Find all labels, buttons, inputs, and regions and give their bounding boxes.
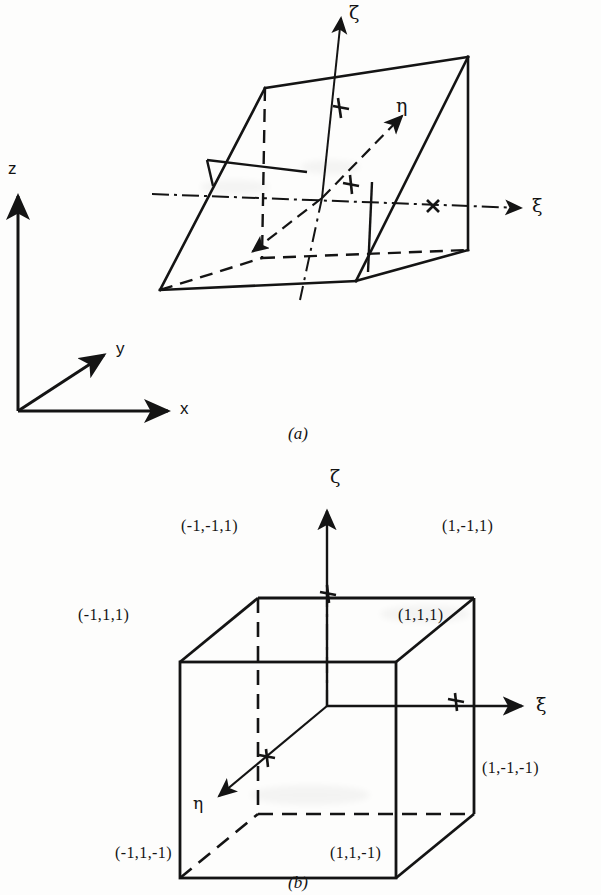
wedge-interior-vertical [368, 182, 372, 272]
caption-b: (b) [288, 873, 308, 893]
global-z-axis-label: z [8, 160, 17, 177]
axis-tick-marks [333, 98, 439, 212]
xi-axis-label-a: ξ [532, 196, 542, 215]
eta-axis-label-a: η [396, 96, 407, 115]
eta-axis-b [219, 706, 327, 796]
xi-axis-label-b: ξ [536, 695, 546, 714]
panel-b-drawing [0, 455, 601, 895]
global-x-axis-label: x [180, 400, 189, 417]
vertex-label-bottom-back-right: (1,-1,-1) [482, 760, 539, 776]
wedge-hidden-edges [160, 88, 468, 290]
caption-a: (a) [288, 424, 308, 444]
figure-page: z y x ζ η ξ (a) [0, 0, 601, 895]
global-y-axis-label: y [116, 340, 125, 357]
vertex-label-top-front-right: (1,1,1) [398, 607, 443, 623]
vertex-label-bottom-front-right: (1,1,-1) [330, 845, 381, 861]
global-axis-triad [18, 196, 168, 411]
vertex-label-bottom-front-left: (-1,1,-1) [115, 845, 172, 861]
zeta-axis-a [300, 18, 341, 300]
panel-a-drawing [0, 0, 601, 465]
vertex-label-top-back-right: (1,-1,1) [442, 518, 493, 534]
panel-a: z y x ζ η ξ (a) [0, 0, 601, 465]
eta-axis-label-b: η [193, 795, 203, 812]
panel-b: ζ ξ η (-1,-1,1) (1,-1,1) (-1,1,1) (1,1,1… [0, 455, 601, 895]
vertex-label-top-front-left: (-1,1,1) [78, 607, 129, 623]
vertex-label-top-back-left: (-1,-1,1) [181, 518, 238, 534]
zeta-axis-label-a: ζ [349, 3, 359, 22]
zeta-axis-label-b: ζ [330, 467, 340, 486]
